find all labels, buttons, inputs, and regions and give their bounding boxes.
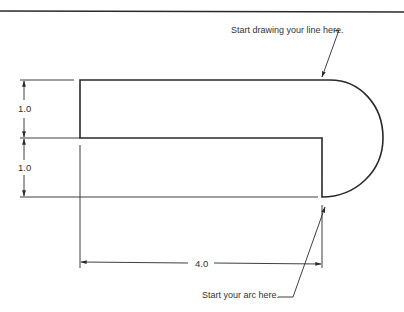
leader-start-arc	[278, 207, 325, 297]
extension-lines	[20, 80, 322, 268]
annotation-start-arc: Start your arc here.	[202, 290, 279, 300]
annotation-start-line: Start drawing your line here.	[231, 25, 344, 35]
dimension-length-label: 4.0	[195, 258, 208, 269]
dimension-lower-height-label: 1.0	[18, 162, 31, 173]
dimension-upper-height-label: 1.0	[18, 103, 31, 114]
leader-start-line	[322, 30, 339, 77]
shape-outline	[80, 80, 383, 197]
top-rule	[0, 11, 404, 12]
drawing-diagram: 1.0 1.0 4.0 Start drawing your line here…	[0, 0, 404, 312]
